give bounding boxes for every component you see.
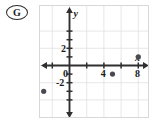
x-axis-arrow-right (143, 62, 149, 69)
y-axis-arrow-up (66, 7, 73, 13)
y-axis-tick-label: 2 (61, 43, 66, 54)
scatter-data-point (41, 89, 46, 94)
y-axis-name-label: y (73, 8, 79, 19)
coordinate-plane-svg: 0482-2 xy (40, 6, 149, 118)
problem-letter-badge: G (6, 5, 28, 20)
x-axis-tick-label: 4 (101, 68, 106, 79)
axis-names-group: xy (73, 8, 141, 63)
y-axis-tick-label: -2 (56, 77, 64, 88)
scatter-data-point (136, 54, 141, 59)
grid-lines-group (40, 6, 149, 118)
y-axis-arrow-down (66, 112, 73, 118)
scatter-data-point (110, 72, 115, 77)
axes-group (41, 7, 149, 118)
coordinate-plane-panel: 0482-2 xy (39, 5, 149, 118)
x-axis-tick-label: 8 (135, 68, 140, 79)
x-axis-arrow-left (41, 62, 47, 69)
problem-letter-label: G (13, 8, 21, 18)
worksheet-graph-item: G 0482-2 xy (0, 0, 150, 120)
